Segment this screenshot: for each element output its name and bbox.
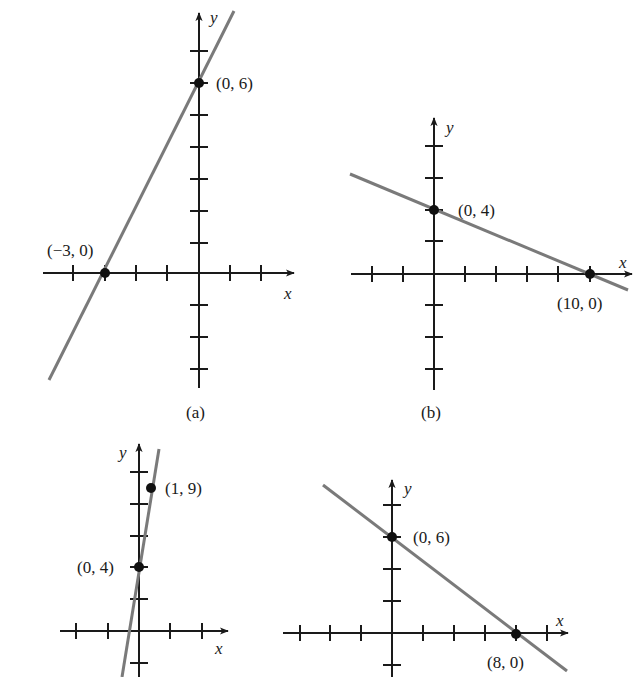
panel-c-point-second <box>146 483 156 493</box>
panel-c-y-axis-label: y <box>117 443 127 462</box>
panel-d-x-axis-label: x <box>555 611 564 630</box>
panel-a-label-y-intercept: (0, 6) <box>216 74 253 93</box>
panel-d-label-x-intercept: (8, 0) <box>487 653 524 672</box>
panel-b-point-y-intercept <box>429 205 439 215</box>
panel-c-label-y-intercept: (0, 4) <box>77 558 114 577</box>
panel-a-point-y-intercept <box>194 78 204 88</box>
panel-b-x-axis-label: x <box>618 253 627 272</box>
panel-b-label-y-intercept: (0, 4) <box>458 201 495 220</box>
panel-c-label-second: (1, 9) <box>165 479 202 498</box>
panel-b-caption: (b) <box>421 403 441 422</box>
panel-a-graph-line <box>49 11 234 380</box>
panel-a-caption: (a) <box>186 403 205 422</box>
panel-b-point-x-intercept <box>585 269 595 279</box>
panel-a-label-x-intercept: (−3, 0) <box>47 241 93 260</box>
panel-c-x-axis-label: x <box>214 639 223 658</box>
panel-d: (0, 6) (8, 0) x y <box>283 479 568 677</box>
panel-c: (0, 4) (1, 9) x y <box>60 443 228 677</box>
panel-d-point-x-intercept <box>511 629 521 639</box>
panel-d-y-axis-label: y <box>402 479 412 498</box>
panel-d-label-y-intercept: (0, 6) <box>413 528 450 547</box>
panel-c-point-y-intercept <box>134 562 144 572</box>
panel-b: (0, 4) (10, 0) x y (b) <box>350 118 632 422</box>
panel-b-y-axis-label: y <box>444 118 454 137</box>
graphs-figure: (−3, 0) (0, 6) x y (a) (0, <box>0 0 637 677</box>
panel-d-graph-line <box>323 485 567 671</box>
panel-a: (−3, 0) (0, 6) x y (a) <box>43 8 294 422</box>
panel-a-point-x-intercept <box>100 268 110 278</box>
panel-b-label-x-intercept: (10, 0) <box>557 294 602 313</box>
panel-d-point-y-intercept <box>387 532 397 542</box>
panel-a-y-axis-label: y <box>208 8 218 27</box>
panel-a-x-axis-label: x <box>283 284 292 303</box>
